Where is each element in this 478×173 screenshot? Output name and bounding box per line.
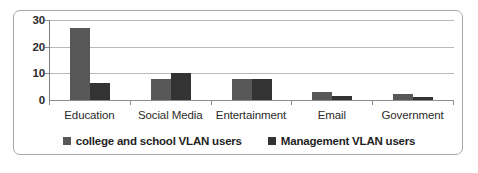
plot-area: 30 20 10 0 (14, 11, 464, 121)
bar-group-social-media (131, 20, 212, 100)
bar-email-management-vlan-users[interactable] (332, 96, 352, 100)
x-category-label-government: Government (372, 108, 453, 123)
x-category-label-education: Education (49, 108, 130, 123)
legend-entry-series-1[interactable]: college and school VLAN users (63, 135, 242, 147)
bar-education-college-and-school-vlan-users[interactable] (70, 28, 90, 100)
y-tick-label-10: 10 (18, 68, 45, 80)
bar-government-college-and-school-vlan-users[interactable] (393, 94, 413, 100)
bar-group-education (50, 20, 131, 100)
x-tickmark-4 (372, 101, 373, 105)
legend-swatch-series-1-icon (63, 137, 71, 145)
legend-swatch-series-2-icon (268, 137, 276, 145)
x-tickmark-3 (291, 101, 292, 105)
legend-entry-series-2[interactable]: Management VLAN users (268, 135, 415, 147)
y-tick-label-20: 20 (18, 42, 45, 54)
bar-email-college-and-school-vlan-users[interactable] (312, 92, 332, 100)
bar-education-management-vlan-users[interactable] (90, 83, 110, 100)
bar-government-management-vlan-users[interactable] (413, 97, 433, 100)
bar-social-media-college-and-school-vlan-users[interactable] (151, 79, 171, 100)
y-tick-label-30: 30 (18, 15, 45, 27)
x-axis-category-labels: Education Social Media Entertainment Ema… (49, 108, 454, 126)
chart-legend: college and school VLAN users Management… (14, 131, 464, 151)
legend-label-series-1: college and school VLAN users (76, 135, 242, 147)
bar-group-email (292, 20, 373, 100)
bar-entertainment-college-and-school-vlan-users[interactable] (232, 79, 252, 100)
y-tick-label-0: 0 (18, 95, 45, 107)
chart-frame: 30 20 10 0 (13, 10, 463, 155)
x-tickmark-2 (211, 101, 212, 105)
bar-entertainment-management-vlan-users[interactable] (252, 79, 272, 100)
x-tickmark-0 (49, 101, 50, 105)
x-axis-tickmarks (49, 101, 454, 105)
x-tickmark-5 (453, 101, 454, 105)
bar-group-government (373, 20, 454, 100)
x-tickmark-1 (130, 101, 131, 105)
x-category-label-social-media: Social Media (130, 108, 211, 123)
bar-social-media-management-vlan-users[interactable] (171, 73, 191, 101)
bar-group-entertainment (212, 20, 293, 100)
x-category-label-email: Email (291, 108, 372, 123)
y-axis-tick-labels: 30 20 10 0 (18, 20, 45, 100)
x-category-label-entertainment: Entertainment (211, 108, 292, 123)
legend-label-series-2: Management VLAN users (281, 135, 415, 147)
bar-series-container (50, 20, 454, 100)
